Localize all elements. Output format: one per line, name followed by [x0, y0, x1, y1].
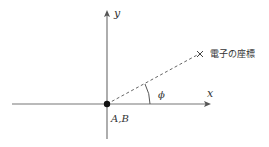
electron-direction-line: [107, 54, 199, 104]
electron-coordinate-label: 電子の座標: [210, 48, 255, 59]
electron-position-marker-icon: [197, 51, 203, 57]
x-axis-label: x: [207, 87, 214, 100]
angle-arc: [145, 84, 150, 104]
origin-point: [104, 101, 110, 107]
origin-label: A,B: [110, 113, 129, 124]
y-axis-label: y: [113, 7, 121, 20]
coordinate-diagram: y x ϕ A,B 電子の座標: [0, 0, 269, 147]
angle-label: ϕ: [158, 89, 165, 100]
